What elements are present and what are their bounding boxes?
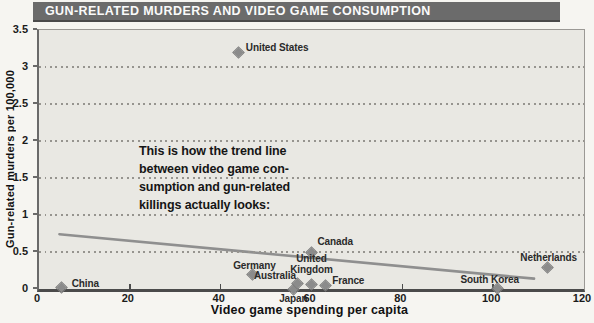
- gridline-2: [39, 140, 584, 142]
- page: GUN-RELATED MURDERS AND VIDEO GAME CONSU…: [0, 0, 594, 323]
- gridline-3: [39, 66, 584, 68]
- y-tick-label-3: 3: [22, 60, 28, 72]
- gridline-1.5: [39, 177, 584, 179]
- y-tick-mark-0: [33, 287, 37, 289]
- chart-title-bar: GUN-RELATED MURDERS AND VIDEO GAME CONSU…: [33, 2, 560, 22]
- gridline-1: [39, 214, 584, 216]
- point-label-united-kingdom: United Kingdom: [290, 253, 333, 275]
- y-tick-mark-2.5: [33, 102, 37, 104]
- y-tick-mark-3: [33, 65, 37, 67]
- plot-area: This is how the trend line between video…: [37, 29, 585, 292]
- point-label-france: France: [332, 275, 364, 286]
- y-tick-mark-2: [33, 139, 37, 141]
- y-tick-label-1: 1: [22, 208, 28, 220]
- gridline-2.5: [39, 103, 584, 105]
- y-tick-label-0: 0: [22, 282, 28, 294]
- y-tick-label-2: 2: [22, 134, 28, 146]
- point-label-canada: Canada: [318, 236, 354, 247]
- point-label-united-states: United States: [246, 42, 309, 53]
- y-tick-mark-3.5: [33, 28, 37, 30]
- x-tick-mark-40: [220, 284, 222, 289]
- point-label-netherlands: Netherlands: [520, 251, 577, 262]
- point-label-south-korea: South Korea: [461, 274, 519, 285]
- y-tick-mark-1.5: [33, 176, 37, 178]
- y-axis-title: Gun-related murders per 100,000: [2, 29, 18, 288]
- x-tick-mark-80: [402, 284, 404, 289]
- y-tick-mark-1: [33, 213, 37, 215]
- x-axis-title: Video game spending per capita: [37, 303, 582, 317]
- y-tick-mark-0.5: [33, 250, 37, 252]
- chart-title: GUN-RELATED MURDERS AND VIDEO GAME CONSU…: [45, 4, 431, 18]
- x-tick-mark-20: [129, 284, 131, 289]
- point-label-china: China: [72, 277, 99, 288]
